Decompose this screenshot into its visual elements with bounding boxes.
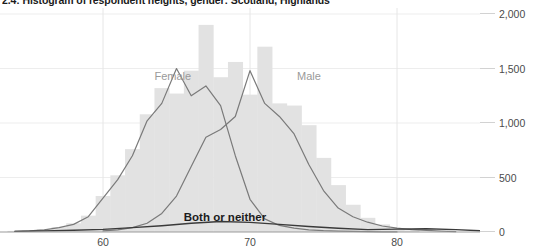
histogram-bar [96,196,111,232]
y-tick: 1,500 [480,62,541,76]
histogram-bar [257,47,272,232]
y-tick: 500 [480,171,541,185]
histogram-bar [287,106,302,232]
y-axis: 2,0001,5001,0005000 [480,0,541,252]
histogram-bar [316,158,331,232]
histogram-bar [301,125,316,232]
x-tick-label: 80 [377,236,417,249]
y-tick-label: 500 [499,171,517,185]
series-label-male: Male [297,70,321,83]
y-tick-mark [480,177,495,178]
histogram-bar [199,25,214,232]
y-tick-mark [480,13,495,14]
plot-area [0,8,480,234]
y-tick-label: 0 [499,225,505,239]
chart-title: 2.4: Histogram of respondent heights, ge… [2,0,472,8]
histogram-bar [228,62,243,232]
histogram-bar [213,77,228,232]
y-tick-mark [480,68,495,69]
y-tick-mark [480,122,495,123]
y-tick-label: 1,000 [499,116,525,130]
histogram-bar [125,149,140,232]
chart-root: 2.4: Histogram of respondent heights, ge… [0,0,541,252]
x-tick-label: 60 [83,236,123,249]
y-tick: 1,000 [480,116,541,130]
y-tick-label: 1,500 [499,62,525,76]
series-label-both-or-neither: Both or neither [184,211,266,224]
plot-svg [0,8,480,234]
y-tick-label: 2,000 [499,7,525,21]
y-tick: 0 [480,225,541,239]
x-tick-label: 70 [230,236,270,249]
histogram-bar [169,94,184,232]
y-tick: 2,000 [480,7,541,21]
series-label-female: Female [154,70,191,83]
histogram-bars [7,25,419,232]
histogram-bar [110,175,125,232]
y-tick-mark [480,231,495,232]
